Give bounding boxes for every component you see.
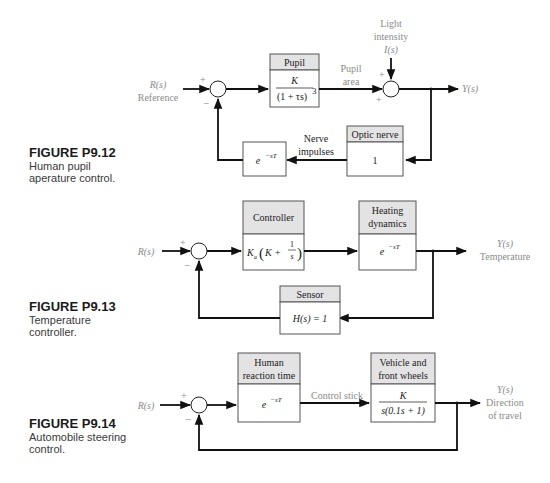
figure-p9-14: FIGURE P9.14 Automobile steering control… — [29, 353, 524, 455]
paren-open: ( — [259, 245, 264, 262]
pupil-block: Pupil K (1 + τs) 3 — [270, 54, 319, 107]
sensor-block: Sensor H(s) = 1 — [280, 286, 340, 334]
output-signal-label: Y(s) — [497, 384, 514, 396]
plus-sign: + — [181, 390, 187, 401]
input-reference-label: Reference — [138, 92, 179, 103]
output-label: of travel — [488, 410, 522, 421]
controller-block: Controller K a ( K + 1 s ) — [243, 201, 304, 270]
tf-exponent: −sT — [265, 152, 277, 160]
tf-base: e — [380, 246, 385, 257]
vehicle-front-wheels-block: Vehicle and front wheels K s(0.1s + 1) — [371, 353, 435, 422]
signal-label: Nerve — [304, 133, 329, 144]
output-signal-label: Y(s) — [462, 83, 479, 95]
delay-block: e −sT — [243, 142, 286, 176]
disturbance-symbol: I(s) — [383, 44, 399, 56]
block-title: front wheels — [378, 370, 428, 381]
summing-junction — [191, 397, 207, 413]
figure-caption-line: Human pupil — [29, 160, 91, 172]
plus-sign: + — [180, 237, 186, 248]
input-signal-label: R(s) — [149, 79, 167, 91]
block-title: dynamics — [368, 218, 406, 229]
tf-base: e — [256, 155, 261, 166]
output-signal-label: Y(s) — [497, 238, 514, 250]
tf-numerator: K — [399, 390, 408, 401]
block-title: Vehicle and — [380, 357, 427, 368]
block-title: Human — [254, 357, 283, 368]
tf-value: H(s) = 1 — [292, 313, 328, 325]
block-title: Heating — [372, 205, 404, 216]
block-title: Optic nerve — [352, 129, 399, 140]
tf-value: 1 — [373, 155, 378, 166]
summing-junction — [383, 81, 399, 97]
figure-caption-line: control. — [29, 443, 65, 455]
output-label: Direction — [486, 397, 524, 408]
tf-exponent: −sT — [270, 396, 282, 404]
summing-junction — [191, 243, 207, 259]
figure-caption-line: aperature control. — [29, 172, 115, 184]
tf-exponent: 3 — [312, 86, 317, 96]
tf-base: e — [262, 399, 267, 410]
tf-exponent: −sT — [388, 243, 400, 251]
tf-frac-num: 1 — [290, 240, 294, 249]
block-title: Controller — [253, 212, 295, 223]
output-label: Temperature — [480, 251, 531, 262]
plus-sign: + — [376, 94, 382, 105]
block-title: Sensor — [296, 289, 324, 300]
tf-frac-den: s — [290, 252, 293, 261]
figure-title: FIGURE P9.14 — [29, 416, 116, 431]
block-diagrams-canvas: FIGURE P9.12 Human pupil aperature contr… — [0, 0, 550, 483]
feedback-path — [406, 89, 431, 160]
summing-junction — [210, 81, 226, 97]
input-signal-label: R(s) — [137, 400, 155, 412]
signal-label: Pupil — [340, 63, 361, 74]
figure-p9-12: FIGURE P9.12 Human pupil aperature contr… — [29, 18, 479, 184]
tf-denominator: (1 + τs) — [277, 91, 307, 103]
paren-close: ) — [297, 245, 302, 262]
figure-caption-line: Temperature — [29, 314, 91, 326]
plus-sign: + — [200, 74, 206, 85]
figure-caption-line: Automobile steering — [29, 431, 126, 443]
tf-denominator: s(0.1s + 1) — [381, 405, 425, 417]
signal-label: area — [343, 76, 360, 87]
disturbance-label: Light — [380, 18, 402, 29]
signal-label: impulses — [298, 146, 334, 157]
block-title: reaction time — [243, 370, 296, 381]
heating-dynamics-block: Heating dynamics e −sT — [359, 201, 416, 270]
minus-sign: − — [185, 413, 191, 425]
human-reaction-time-block: Human reaction time e −sT — [238, 353, 300, 422]
tf-inner: K + — [264, 247, 281, 258]
signal-label: Control stick — [311, 390, 363, 401]
tf-gain-subscript: a — [254, 254, 257, 260]
figure-title: FIGURE P9.13 — [29, 299, 116, 314]
figure-p9-13: FIGURE P9.13 Temperature controller. R(s… — [29, 201, 531, 338]
optic-nerve-block: Optic nerve 1 — [347, 126, 403, 176]
disturbance-label: intensity — [374, 31, 408, 42]
tf-numerator: K — [290, 75, 299, 86]
block-title: Pupil — [284, 57, 305, 68]
figure-title: FIGURE P9.12 — [29, 145, 116, 160]
figure-caption-line: controller. — [29, 326, 77, 338]
feedback-path — [218, 99, 243, 160]
input-signal-label: R(s) — [137, 246, 155, 258]
minus-sign: − — [184, 259, 190, 271]
minus-sign: − — [203, 97, 209, 109]
plus-sign: + — [379, 69, 385, 80]
